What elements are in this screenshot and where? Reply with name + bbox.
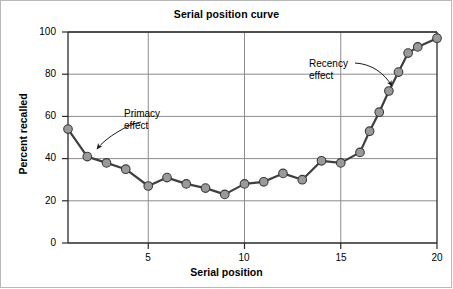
data-point	[385, 87, 394, 96]
y-tick-100: 100	[26, 26, 56, 37]
y-tick-20: 20	[26, 195, 56, 206]
data-point	[201, 184, 210, 193]
data-point	[298, 175, 307, 184]
plot-frame	[68, 32, 437, 243]
recency-effect-line-2: effect	[309, 70, 333, 81]
data-point	[259, 178, 268, 187]
y-tick-0: 0	[26, 237, 56, 248]
data-point	[365, 127, 374, 136]
data-point	[102, 159, 111, 168]
x-tick-5: 5	[135, 252, 161, 263]
data-point	[163, 173, 172, 182]
data-point	[182, 180, 191, 189]
data-point	[144, 182, 153, 191]
plot-area	[0, 0, 453, 289]
gridlines	[68, 32, 437, 243]
data-point	[279, 169, 288, 178]
y-tick-40: 40	[26, 152, 56, 163]
data-point	[220, 190, 229, 199]
data-point	[404, 49, 413, 58]
y-axis-ticks	[62, 32, 68, 243]
y-axis-label: Percent recalled	[17, 64, 29, 204]
x-axis-label: Serial position	[0, 266, 453, 278]
x-axis-ticks	[148, 243, 437, 249]
primacy-effect-line-1: Primacy	[124, 108, 160, 119]
x-tick-15: 15	[328, 252, 354, 263]
recency-effect-annotation: Recencyeffect	[309, 58, 348, 81]
data-point	[317, 157, 326, 166]
data-point	[413, 43, 422, 52]
primacy-effect-line-2: effect	[124, 120, 148, 131]
recency-effect-line-1: Recency	[309, 58, 348, 69]
data-point	[240, 180, 249, 189]
data-point	[83, 152, 92, 161]
data-point	[433, 34, 442, 43]
y-tick-60: 60	[26, 110, 56, 121]
data-point	[375, 108, 384, 117]
data-point	[356, 148, 365, 157]
x-tick-20: 20	[424, 252, 450, 263]
x-tick-10: 10	[231, 252, 257, 263]
data-point	[64, 125, 73, 134]
data-point	[121, 165, 130, 174]
primacy-effect-annotation: Primacyeffect	[124, 108, 160, 131]
serial-position-curve-figure: Serial position curve	[0, 0, 453, 289]
y-tick-80: 80	[26, 68, 56, 79]
data-point	[336, 159, 345, 168]
data-point	[394, 68, 403, 77]
